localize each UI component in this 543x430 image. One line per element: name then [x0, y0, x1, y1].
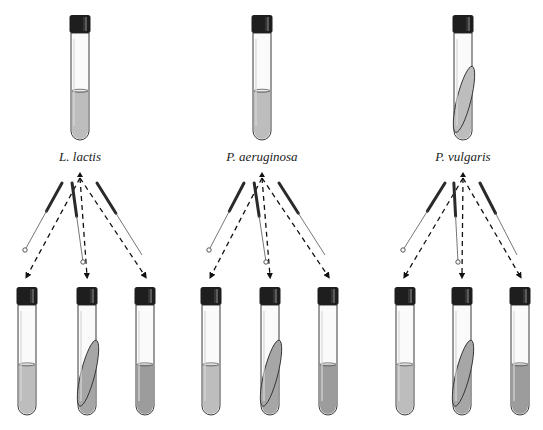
- transfer-arrow-icon: [262, 178, 328, 276]
- target-tube-1-2: [73, 287, 103, 415]
- cap: [395, 287, 416, 305]
- cap: [452, 287, 473, 305]
- source-tube-2: [252, 15, 273, 140]
- transfer-arrow-icon: [463, 178, 520, 276]
- organism-label-l-lactis: L. lactis: [0, 149, 160, 165]
- straight-needle-icon: [480, 183, 517, 255]
- inoculation-diagram: [0, 0, 543, 430]
- target-tube-3-3: [510, 287, 531, 415]
- target-tube-1-3: [135, 287, 156, 415]
- target-tube-2-3: [318, 287, 339, 415]
- inoculating-loop-icon: [401, 183, 445, 252]
- apex-arrow-icon: [77, 172, 83, 177]
- cap: [260, 287, 281, 305]
- target-tube-2-1: [201, 287, 222, 415]
- target-tube-3-2: [448, 287, 478, 415]
- cap: [510, 287, 531, 305]
- cap: [318, 287, 339, 305]
- cap: [252, 15, 273, 33]
- inoculating-loop-icon: [207, 183, 244, 252]
- organism-label-p-vulgaris: P. vulgaris: [383, 149, 543, 165]
- apex-arrow-icon: [460, 172, 466, 177]
- cap: [17, 287, 38, 305]
- target-tube-2-2: [256, 287, 286, 415]
- source-tube-1: [70, 15, 91, 140]
- source-tube-3: [449, 15, 479, 140]
- transfer-arrow-icon: [80, 178, 145, 276]
- straight-needle-icon: [279, 183, 325, 255]
- transfer-arrow-icon: [462, 178, 463, 276]
- cap: [135, 287, 156, 305]
- organism-label-p-aeruginosa: P. aeruginosa: [182, 149, 342, 165]
- target-tube-1-1: [17, 287, 38, 415]
- cap: [77, 287, 98, 305]
- cap: [453, 15, 474, 33]
- target-tube-3-1: [395, 287, 416, 415]
- inoculating-loop-icon: [23, 183, 62, 252]
- apex-arrow-icon: [259, 172, 265, 177]
- straight-needle-icon: [97, 183, 142, 255]
- inoculating-needle-icon: [454, 183, 460, 264]
- cap: [70, 15, 91, 33]
- cap: [201, 287, 222, 305]
